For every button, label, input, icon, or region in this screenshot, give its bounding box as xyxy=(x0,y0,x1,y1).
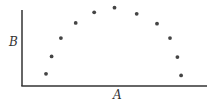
y-axis-label: B xyxy=(9,36,18,48)
data-point xyxy=(74,21,78,25)
data-point xyxy=(59,36,63,40)
data-point xyxy=(135,12,139,16)
scatter-plot xyxy=(0,0,215,103)
data-point xyxy=(179,74,183,78)
data-point xyxy=(168,36,172,40)
data-point xyxy=(44,72,48,76)
data-point xyxy=(155,22,159,26)
data-point xyxy=(176,55,180,59)
data-point xyxy=(92,10,96,14)
data-point xyxy=(113,6,117,10)
x-axis-label: A xyxy=(113,89,122,101)
data-points xyxy=(44,6,183,78)
data-point xyxy=(50,55,54,59)
